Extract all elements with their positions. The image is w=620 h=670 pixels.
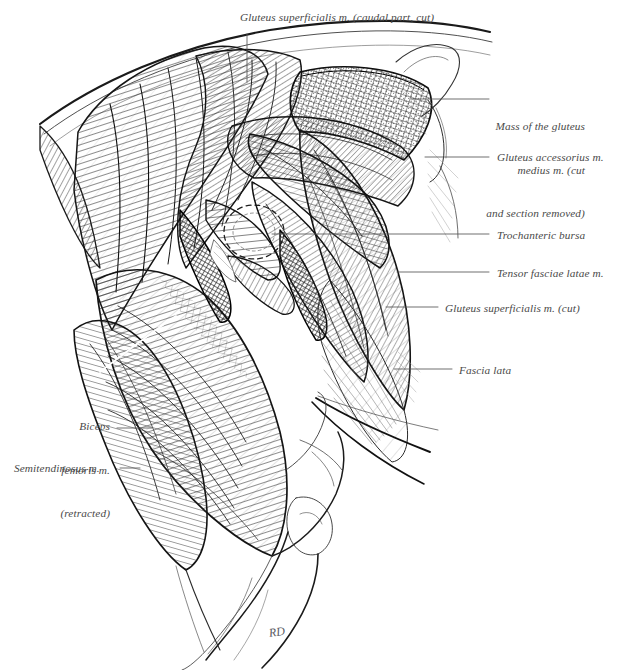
label-line: and section removed) bbox=[437, 206, 585, 221]
label-trochanteric-bursa: Trochanteric bursa bbox=[497, 228, 585, 243]
label-semitendinosus: Semitendinosus m. bbox=[14, 461, 100, 476]
anatomical-plate: Gluteus superficialis m. (caudal part, c… bbox=[0, 0, 620, 670]
label-line: (retracted) bbox=[16, 506, 110, 521]
label-fascia-lata: Fascia lata bbox=[459, 363, 511, 378]
label-mass-gluteus-medius: Mass of the gluteus medius m. (cut and s… bbox=[437, 90, 585, 250]
label-line: Biceps bbox=[16, 419, 110, 434]
label-gluteus-superficialis-cut: Gluteus superficialis m. (cut) bbox=[445, 301, 580, 316]
label-gluteus-superficialis-caudal: Gluteus superficialis m. (caudal part, c… bbox=[240, 10, 434, 25]
label-gluteus-accessorius: Gluteus accessorius m. bbox=[497, 150, 604, 165]
label-tensor-fasciae-latae: Tensor fasciae latae m. bbox=[497, 266, 604, 281]
label-line: Mass of the gluteus bbox=[437, 119, 585, 134]
label-line: medius m. (cut bbox=[437, 163, 585, 178]
artist-signature: RD bbox=[268, 624, 286, 641]
